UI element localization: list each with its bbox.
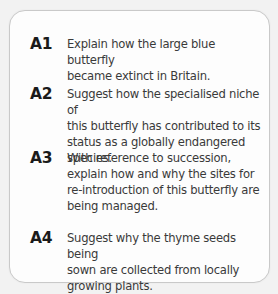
question-label: A2 [30,86,67,102]
question-line: With reference to succession, [67,150,265,166]
question-line: being managed. [67,198,265,214]
question-line: re-introduction of this butterfly are [67,182,265,198]
question-label: A3 [30,150,67,166]
question-text: Suggest why the thyme seeds being sown a… [67,230,265,294]
question-a3: A3 With reference to succession, explain… [30,150,265,214]
question-box: A1 Explain how the large blue butterfly … [9,10,270,283]
question-label: A1 [30,36,67,52]
question-a4: A4 Suggest why the thyme seeds being sow… [30,230,265,294]
question-line: Suggest why the thyme seeds being [67,230,265,262]
question-line: explain how and why the sites for [67,166,265,182]
question-line: Suggest how the specialised niche of [67,86,265,118]
question-line: this butterfly has contributed to its [67,118,265,134]
question-text: Explain how the large blue butterfly bec… [67,36,265,84]
question-line: growing plants. [67,278,265,294]
question-line: sown are collected from locally [67,262,265,278]
question-line: became extinct in Britain. [67,68,265,84]
question-label: A4 [30,230,67,246]
question-line: Explain how the large blue butterfly [67,36,265,68]
question-text: With reference to succession, explain ho… [67,150,265,214]
question-a1: A1 Explain how the large blue butterfly … [30,36,265,84]
question-line: status as a globally endangered [67,134,265,150]
